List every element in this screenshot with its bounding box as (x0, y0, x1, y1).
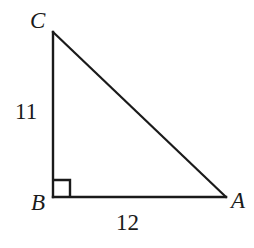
side-length-label-bc: 11 (15, 100, 37, 123)
side-length-label-ba: 12 (116, 211, 139, 234)
vertex-label-c: C (30, 9, 45, 32)
right-angle-square-icon (53, 180, 70, 197)
vertex-label-a: A (231, 189, 245, 212)
triangle-side-ca (53, 32, 226, 197)
geometry-figure: C B A 11 12 (0, 0, 254, 248)
vertex-label-b: B (31, 191, 45, 214)
